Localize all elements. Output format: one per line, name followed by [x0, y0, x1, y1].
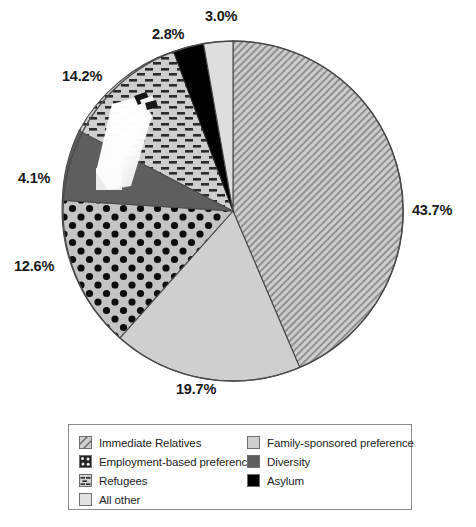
legend-item-all-other[interactable]: All other [79, 493, 247, 506]
pie-slices [62, 41, 403, 381]
diagonal-hatch-swatch-icon [79, 436, 92, 449]
lightest-gray-swatch-icon [79, 493, 92, 506]
pct-label-employment-based: 12.6% [14, 258, 54, 274]
legend-label: Family-sponsored preference [267, 437, 414, 449]
legend-item-family-sponsored[interactable]: Family-sponsored preference [247, 436, 405, 449]
pct-label-refugees: 14.2% [62, 68, 102, 84]
legend-item-refugees[interactable]: Refugees [79, 474, 247, 487]
dashed-swatch-icon [79, 474, 92, 487]
light-gray-swatch-icon [247, 436, 260, 449]
legend-label: Asylum [267, 475, 304, 487]
pct-label-all-other: 3.0% [205, 8, 237, 24]
legend-label: All other [99, 494, 140, 506]
legend-item-asylum[interactable]: Asylum [247, 474, 405, 487]
legend-item-diversity[interactable]: Diversity [247, 455, 405, 468]
pie-chart-area: 43.7% 19.7% 12.6% 4.1% 14.2% 2.8% 3.0% [0, 0, 476, 412]
pie-chart-svg [0, 0, 476, 412]
pct-label-diversity: 4.1% [18, 170, 50, 186]
pct-label-immediate-relatives: 43.7% [412, 202, 452, 218]
pct-label-asylum: 2.8% [152, 26, 184, 42]
legend-item-employment-based[interactable]: Employment-based preferences [79, 455, 247, 468]
black-swatch-icon [247, 474, 260, 487]
legend-item-immediate-relatives[interactable]: Immediate Relatives [79, 436, 247, 449]
chart-legend: Immediate Relatives Family-sponsored pre… [68, 424, 412, 510]
legend-label: Employment-based preferences [99, 456, 259, 468]
legend-label: Refugees [99, 475, 147, 487]
dark-dotted-swatch-icon [79, 455, 92, 468]
legend-label: Immediate Relatives [99, 437, 201, 449]
legend-label: Diversity [267, 456, 310, 468]
medium-gray-swatch-icon [247, 455, 260, 468]
pct-label-family-sponsored: 19.7% [176, 381, 216, 397]
